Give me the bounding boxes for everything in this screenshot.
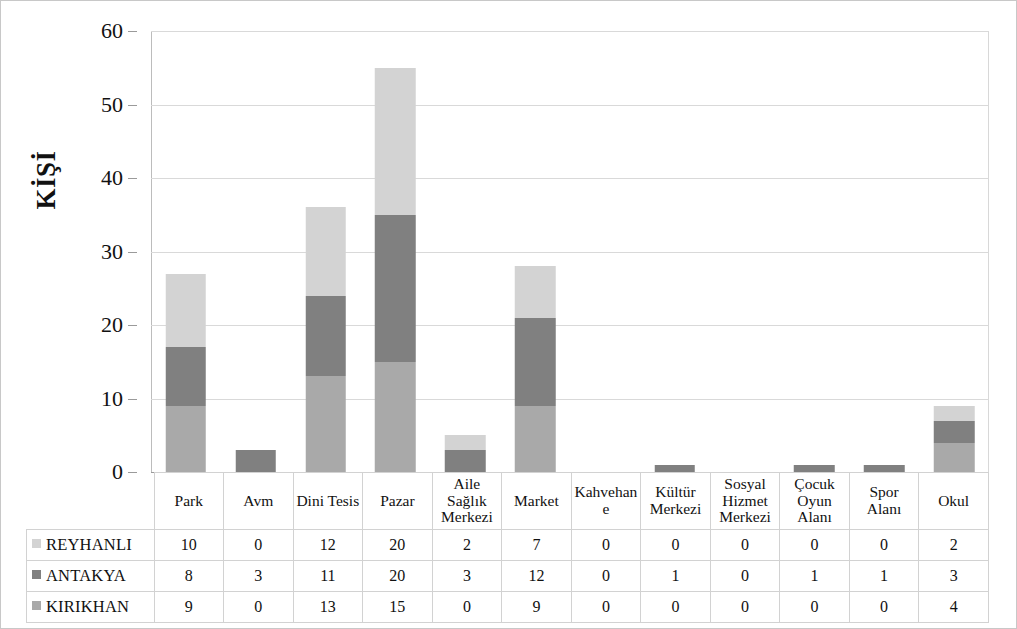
y-tick-label: 50 [101,92,123,118]
table-column-header: Kahvehan e [571,473,641,530]
bar-segment-reyhanli[interactable] [515,266,556,317]
table-cell: 3 [919,561,989,592]
plot-area [151,31,989,472]
table-cell: 0 [849,530,919,561]
bar-segment-reyhanli[interactable] [445,435,486,450]
series-name-label: REYHANLI [46,535,132,554]
table-cell: 0 [710,530,780,561]
bar-segment-antakya[interactable] [235,450,276,472]
table-cell: 0 [571,592,641,623]
table-corner-cell [27,473,155,530]
bar-segment-kirikhan[interactable] [305,376,346,472]
table-cell: 1 [849,561,919,592]
table-cell: 12 [293,530,363,561]
table-header-row: ParkAvmDini TesisPazarAile Sağlık Merkez… [27,473,989,530]
table-cell: 0 [780,530,850,561]
stacked-bar[interactable] [654,465,695,472]
stacked-bar[interactable] [515,266,556,472]
table-column-header: Okul [919,473,989,530]
legend-swatch-icon [32,539,41,548]
table-cell: 0 [571,530,641,561]
category-slot [151,31,221,472]
table-cell: 4 [919,592,989,623]
stacked-bar[interactable] [934,406,975,472]
table-cell: 0 [224,592,294,623]
stacked-bar[interactable] [864,465,905,472]
bar-segment-kirikhan[interactable] [375,362,416,472]
table-row-header: REYHANLI [27,530,155,561]
table-cell: 1 [641,561,711,592]
bar-segment-kirikhan[interactable] [515,406,556,472]
table-cell: 0 [641,530,711,561]
stacked-bar[interactable] [166,274,207,472]
bar-segment-reyhanli[interactable] [934,406,975,421]
table-column-header: Çocuk Oyun Alanı [780,473,850,530]
table-column-header: Dini Tesis [293,473,363,530]
table-row: KIRIKHAN90131509000004 [27,592,989,623]
table-row: ANTAKYA831120312010113 [27,561,989,592]
table-cell: 3 [432,561,502,592]
bar-segment-antakya[interactable] [934,421,975,443]
table-cell: 2 [919,530,989,561]
bar-segment-antakya[interactable] [864,465,905,472]
legend-swatch-icon [32,570,41,579]
bar-segment-antakya[interactable] [445,450,486,472]
y-tick-mark [128,399,137,400]
y-tick-mark [128,178,137,179]
table-cell: 9 [502,592,572,623]
bar-segment-antakya[interactable] [305,296,346,377]
y-tick-mark [128,325,137,326]
table-cell: 15 [363,592,433,623]
table-row: REYHANLI100122027000002 [27,530,989,561]
table-row-header: KIRIKHAN [27,592,155,623]
stacked-bar[interactable] [235,450,276,472]
table-cell: 20 [363,530,433,561]
y-tick-label: 60 [101,18,123,44]
table-cell: 11 [293,561,363,592]
bar-segment-antakya[interactable] [654,465,695,472]
category-slot [849,31,919,472]
table-cell: 0 [710,592,780,623]
table-cell: 12 [502,561,572,592]
table-column-header: Avm [224,473,294,530]
table-column-header: Market [502,473,572,530]
table-cell: 7 [502,530,572,561]
legend-swatch-icon [32,601,41,610]
y-axis-tick-labels: 0102030405060 [1,31,141,472]
bar-segment-kirikhan[interactable] [934,443,975,472]
chart-figure: KİŞİ 0102030405060 ParkAvmDini TesisPaza… [0,0,1017,629]
bar-segment-reyhanli[interactable] [305,207,346,295]
y-tick-label: 10 [101,386,123,412]
bar-segment-kirikhan[interactable] [166,406,207,472]
y-tick-label: 20 [101,312,123,338]
table-column-header: Kültür Merkezi [641,473,711,530]
table-cell: 9 [154,592,224,623]
y-tick-mark [128,105,137,106]
table-column-header: Pazar [363,473,433,530]
y-tick-label: 30 [101,239,123,265]
table-cell: 0 [571,561,641,592]
category-slot [640,31,710,472]
bar-segment-antakya[interactable] [515,318,556,406]
table-cell: 0 [710,561,780,592]
bar-segment-antakya[interactable] [794,465,835,472]
bar-segment-reyhanli[interactable] [375,68,416,215]
stacked-bar[interactable] [305,207,346,472]
bar-segment-antakya[interactable] [375,215,416,362]
stacked-bar[interactable] [794,465,835,472]
y-tick-mark [128,31,137,32]
bar-series-container [151,31,989,472]
bar-segment-antakya[interactable] [166,347,207,406]
table-cell: 0 [849,592,919,623]
stacked-bar[interactable] [375,68,416,472]
y-tick-label: 40 [101,165,123,191]
table-cell: 10 [154,530,224,561]
category-slot [710,31,780,472]
category-slot [570,31,640,472]
table-cell: 2 [432,530,502,561]
table-cell: 0 [224,530,294,561]
stacked-bar[interactable] [445,435,486,472]
table-row-header: ANTAKYA [27,561,155,592]
bar-segment-reyhanli[interactable] [166,274,207,348]
table-cell: 3 [224,561,294,592]
